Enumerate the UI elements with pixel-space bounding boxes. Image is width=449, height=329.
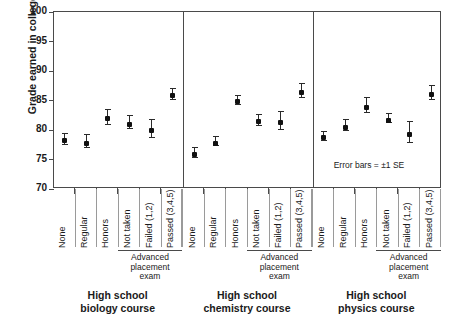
label-separator <box>290 189 291 247</box>
chart-panel <box>183 12 312 187</box>
panel-caption-line1: High school <box>177 289 317 302</box>
x-axis-label: Passed (3,4,5) <box>294 186 304 248</box>
x-axis-label: Passed (3,4,5) <box>165 186 175 248</box>
error-bar-annotation: Error bars = ±1 SE <box>334 160 405 170</box>
error-bar-cap-lower <box>429 99 435 100</box>
label-separator <box>376 189 377 247</box>
error-bar-cap-upper <box>127 115 133 116</box>
panel-caption: High schoolbiology course <box>48 289 188 314</box>
ap-exam-group-label: Advancedplacementexam <box>247 250 312 282</box>
x-axis-label: Failed (1,2) <box>273 186 283 248</box>
x-axis-label: Regular <box>79 186 89 248</box>
data-marker <box>192 152 197 157</box>
error-bar-cap-lower <box>364 112 370 113</box>
data-marker <box>235 99 240 104</box>
y-tick-label: 100 <box>30 5 47 16</box>
ap-exam-group-label: Advancedplacementexam <box>376 250 441 282</box>
error-bar-cap-upper <box>256 114 262 115</box>
label-separator <box>182 189 183 247</box>
y-tick-label: 85 <box>36 94 47 105</box>
x-axis-label: Honors <box>100 186 110 248</box>
label-separator <box>139 189 140 247</box>
error-bar-cap-upper <box>84 134 90 135</box>
error-bar-cap-upper <box>192 147 198 148</box>
error-bar-cap-lower <box>235 104 241 105</box>
error-bar-cap-upper <box>149 119 155 120</box>
ap-group-bracket <box>118 250 183 251</box>
error-bar-cap-lower <box>343 130 349 131</box>
ap-exam-label-line: exam <box>247 272 312 282</box>
label-separator <box>440 189 441 247</box>
data-marker <box>62 138 67 143</box>
panel-caption-line2: chemistry course <box>177 302 317 315</box>
x-axis-label: Honors <box>359 186 369 248</box>
panel-caption-line1: High school <box>48 289 188 302</box>
data-marker <box>105 116 110 121</box>
ap-group-bracket <box>376 250 441 251</box>
x-axis-label: None <box>316 186 326 248</box>
error-bar-cap-upper <box>170 88 176 89</box>
x-axis-label: Not taken <box>381 186 391 248</box>
panel-caption-line2: biology course <box>48 302 188 315</box>
error-bar-cap-upper <box>62 133 68 134</box>
label-separator <box>398 189 399 247</box>
error-bar-cap-upper <box>321 131 327 132</box>
label-separator <box>247 189 248 247</box>
error-bar-cap-lower <box>192 157 198 158</box>
error-bar-cap-upper <box>105 109 111 110</box>
error-bar-cap-upper <box>429 85 435 86</box>
chart-figure: Grade earned in college course 707580859… <box>0 0 449 329</box>
x-axis-label: None <box>187 186 197 248</box>
error-bar-cap-lower <box>299 97 305 98</box>
error-bar-cap-upper <box>235 95 241 96</box>
data-marker <box>278 120 283 125</box>
y-tick-label: 75 <box>36 153 47 164</box>
y-tick-label: 70 <box>36 182 47 193</box>
ap-group-bracket <box>247 250 312 251</box>
error-bar-cap-lower <box>278 129 284 130</box>
data-marker <box>386 118 391 123</box>
error-bar-cap-upper <box>213 136 219 137</box>
data-marker <box>343 125 348 130</box>
data-marker <box>407 132 412 137</box>
y-tick-label: 90 <box>36 64 47 75</box>
error-bar-cap-upper <box>299 83 305 84</box>
data-marker <box>321 135 326 140</box>
x-axis-label: Failed (1,2) <box>144 186 154 248</box>
ap-exam-label-line: exam <box>376 272 441 282</box>
data-marker <box>256 119 261 124</box>
error-bar-cap-lower <box>84 147 90 148</box>
label-separator <box>333 189 334 247</box>
error-bar-cap-lower <box>170 99 176 100</box>
label-separator <box>419 189 420 247</box>
data-marker <box>170 93 175 98</box>
x-axis-label: Not taken <box>122 186 132 248</box>
chart-panel <box>54 12 183 187</box>
y-axis-title: Grade earned in college course <box>26 0 38 126</box>
label-separator <box>161 189 162 247</box>
ap-exam-group-label: Advancedplacementexam <box>118 250 183 282</box>
error-bar-cap-upper <box>364 97 370 98</box>
data-marker <box>84 141 89 146</box>
x-axis-label: None <box>57 186 67 248</box>
x-axis-label: Not taken <box>251 186 261 248</box>
panel-caption-line1: High school <box>306 289 446 302</box>
label-separator <box>355 189 356 247</box>
data-marker <box>127 122 132 127</box>
panel-caption: High schoolchemistry course <box>177 289 317 314</box>
label-separator <box>75 189 76 247</box>
y-tick-label: 80 <box>36 123 47 134</box>
x-axis-label: Regular <box>208 186 218 248</box>
error-bar-cap-lower <box>127 128 133 129</box>
error-bar-cap-lower <box>321 140 327 141</box>
y-tick-label: 95 <box>36 35 47 46</box>
x-axis-label: Honors <box>230 186 240 248</box>
label-separator <box>312 189 313 247</box>
error-bar-cap-lower <box>256 125 262 126</box>
error-bar-cap-lower <box>105 124 111 125</box>
label-separator <box>269 189 270 247</box>
error-bar-cap-upper <box>278 111 284 112</box>
data-marker <box>429 92 434 97</box>
label-separator <box>204 189 205 247</box>
label-separator <box>118 189 119 247</box>
